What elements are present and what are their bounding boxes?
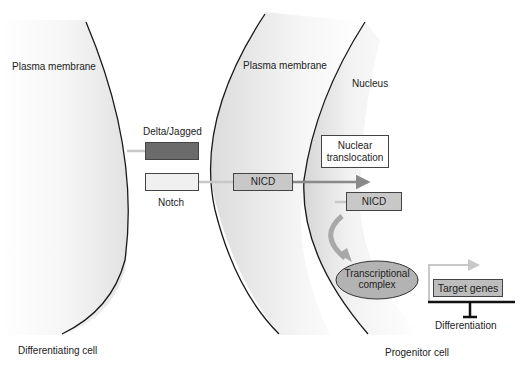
nicd-nucleus-box: NICD bbox=[346, 192, 402, 211]
plasma-membrane-left-label: Plasma membrane bbox=[12, 61, 96, 73]
delta-jagged-label: Delta/Jagged bbox=[143, 126, 202, 138]
differentiation-label: Differentiation bbox=[435, 320, 497, 332]
nuclear-translocation-line2: translocation bbox=[327, 152, 384, 164]
nicd-nucleus-label: NICD bbox=[362, 196, 386, 208]
notch-box bbox=[145, 173, 199, 191]
notch-label: Notch bbox=[158, 197, 184, 209]
target-genes-label: Target genes bbox=[438, 282, 499, 294]
plasma-membrane-right-label: Plasma membrane bbox=[243, 60, 327, 72]
transcriptional-line2: complex bbox=[336, 279, 418, 290]
nucleus-label: Nucleus bbox=[352, 78, 388, 90]
target-genes-box: Target genes bbox=[433, 279, 503, 297]
nicd-membrane-label: NICD bbox=[251, 176, 275, 188]
differentiating-cell-label: Differentiating cell bbox=[18, 345, 97, 357]
progenitor-cell-label: Progenitor cell bbox=[385, 347, 449, 359]
nuclear-translocation-box: Nuclear translocation bbox=[321, 135, 389, 168]
transcriptional-line1: Transcriptional bbox=[336, 268, 418, 279]
delta-jagged-box bbox=[145, 142, 199, 160]
nuclear-translocation-line1: Nuclear bbox=[338, 140, 372, 152]
nicd-membrane-box: NICD bbox=[233, 173, 293, 191]
transcriptional-complex-label: Transcriptional complex bbox=[336, 268, 418, 290]
